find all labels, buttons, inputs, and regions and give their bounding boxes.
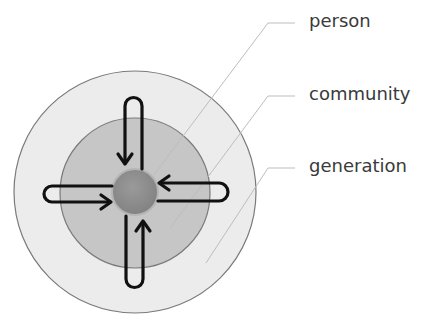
person-circle: [112, 169, 158, 215]
label-person: person: [309, 12, 371, 30]
label-generation: generation: [309, 157, 407, 175]
label-community: community: [309, 85, 411, 103]
